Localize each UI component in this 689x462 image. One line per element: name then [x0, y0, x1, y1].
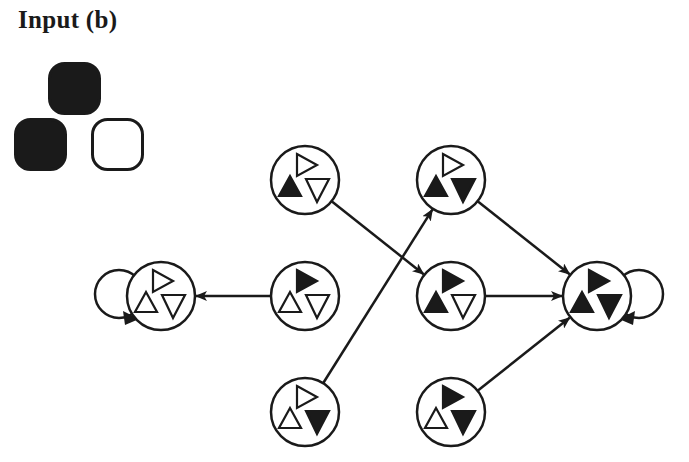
- state-node-n5: [417, 262, 485, 330]
- state-node-n3: [271, 378, 339, 446]
- state-node-n1: [271, 146, 339, 214]
- state-node-n0: [95, 262, 195, 330]
- state-node-n6: [417, 378, 485, 446]
- state-node-n4: [417, 146, 485, 214]
- input-cell-top-filled: [50, 64, 100, 114]
- edge-n1-to-n5: [332, 201, 424, 274]
- state-transition-diagram: [0, 0, 689, 462]
- edges: [196, 201, 570, 391]
- edge-n6-to-n7: [478, 318, 570, 391]
- edge-n4-to-n7: [478, 201, 570, 274]
- input-pattern: [16, 64, 143, 170]
- input-cell-bottom-left-filled: [16, 120, 66, 170]
- state-node-n2: [271, 262, 339, 330]
- state-node-n7: [563, 262, 663, 330]
- input-cell-bottom-right-empty: [93, 120, 143, 170]
